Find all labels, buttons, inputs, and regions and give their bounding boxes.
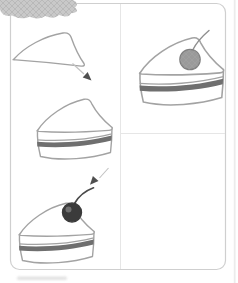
- cherry-highlight: [66, 207, 72, 213]
- cherry-icon: [62, 203, 81, 222]
- book-page: [0, 0, 238, 283]
- cherry-texture: [180, 49, 200, 69]
- page-edge-streak: [234, 0, 236, 283]
- scan-smudge: [17, 277, 67, 281]
- illustration-svg: [0, 0, 238, 283]
